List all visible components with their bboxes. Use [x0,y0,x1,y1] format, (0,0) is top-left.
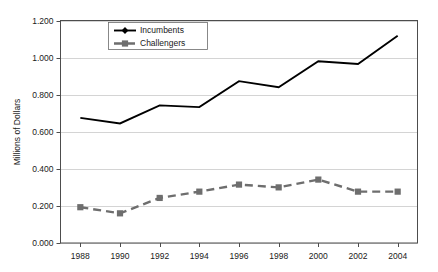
line-chart: 0.0000.2000.4000.6000.8001.0001.200 1988… [0,0,438,272]
x-axis-tick-label: 1996 [230,251,249,261]
chart-legend: IncumbentsChallengers [109,23,208,50]
data-point-marker [276,184,282,190]
y-axis-tick-label: 1.000 [32,53,54,63]
legend-label-challengers: Challengers [140,38,185,48]
legend-label-incumbents: Incumbents [140,25,184,35]
legend-marker-challengers [122,40,128,46]
y-axis-title: Millions of Dollars [12,99,22,166]
x-axis-tick-label: 2000 [309,251,328,261]
y-axis-tick-label: 0.000 [32,238,54,248]
x-axis-tick-label: 1994 [190,251,209,261]
data-point-marker [77,204,83,210]
y-axis-tick-label: 0.600 [32,127,54,137]
x-axis-tick-label: 2004 [388,251,407,261]
data-point-marker [236,181,242,187]
x-axis-tick-label: 1988 [71,251,90,261]
chart-background [0,0,438,272]
x-axis-tick-labels: 198819901992199419961998200020022004 [71,251,408,261]
data-point-marker [315,176,321,182]
data-point-marker [117,210,123,216]
data-point-marker [395,189,401,195]
chart-container: 0.0000.2000.4000.6000.8001.0001.200 1988… [0,0,438,272]
x-axis-tick-label: 2002 [349,251,368,261]
x-axis-tick-label: 1998 [269,251,288,261]
x-axis-tick-label: 1992 [150,251,169,261]
x-axis-tick-label: 1990 [111,251,130,261]
y-axis-tick-label: 0.400 [32,164,54,174]
data-point-marker [196,189,202,195]
y-axis-tick-label: 1.200 [32,16,54,26]
y-axis-tick-label: 0.200 [32,201,54,211]
data-point-marker [157,195,163,201]
data-point-marker [355,189,361,195]
y-axis-tick-label: 0.800 [32,90,54,100]
